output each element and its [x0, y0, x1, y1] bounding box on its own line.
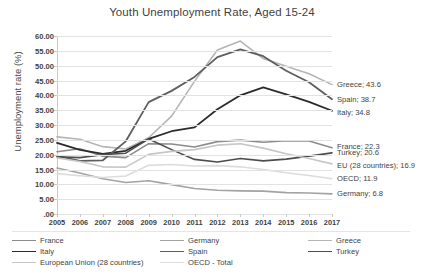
gridline [57, 140, 332, 141]
series-end-label: Italy; 34.8 [337, 108, 370, 117]
x-tick-label: 2005 [49, 218, 65, 227]
y-tick-mark [54, 170, 57, 171]
y-tick-mark [54, 81, 57, 82]
gridline [57, 81, 332, 82]
series-end-label: Spain; 38.7 [337, 95, 375, 104]
y-tick-mark [54, 125, 57, 126]
x-tick-label: 2006 [72, 218, 88, 227]
legend-label: Turkey [336, 247, 359, 256]
legend-label: Spain [188, 247, 207, 256]
y-tick-label: 60.00 [4, 32, 54, 41]
y-tick-mark [54, 110, 57, 111]
legend-item[interactable]: Italy [12, 247, 54, 256]
x-tick-mark [240, 214, 241, 217]
x-tick-label: 2013 [232, 218, 248, 227]
y-tick-mark [54, 36, 57, 37]
legend-item[interactable]: Spain [160, 247, 207, 256]
x-tick-mark [217, 214, 218, 217]
gridline [57, 95, 332, 96]
x-tick-label: 2017 [324, 218, 340, 227]
legend-item[interactable]: OECD - Total [160, 258, 233, 267]
x-tick-label: 2009 [140, 218, 156, 227]
series-line [57, 139, 332, 162]
x-tick-mark [172, 214, 173, 217]
x-tick-mark [195, 214, 196, 217]
gridline [57, 66, 332, 67]
series-line [57, 87, 332, 153]
y-tick-label: 15.00 [4, 165, 54, 174]
y-tick-mark [54, 95, 57, 96]
y-tick-mark [54, 51, 57, 52]
gridline [57, 199, 332, 200]
gridline [57, 110, 332, 111]
y-tick-label: 10.00 [4, 180, 54, 189]
x-tick-label: 2012 [209, 218, 225, 227]
legend-swatch-icon [308, 240, 332, 241]
y-tick-mark [54, 184, 57, 185]
legend-item[interactable]: Turkey [308, 247, 359, 256]
legend-swatch-icon [12, 240, 36, 241]
y-tick-label: 30.00 [4, 121, 54, 130]
x-tick-mark [126, 214, 127, 217]
legend-swatch-icon [160, 240, 184, 241]
legend-item[interactable]: Germany [160, 236, 219, 245]
x-tick-mark [57, 214, 58, 217]
gridline [57, 170, 332, 171]
legend-separator [12, 231, 410, 232]
x-tick-label: 2007 [95, 218, 111, 227]
gridline [57, 155, 332, 156]
y-tick-label: 50.00 [4, 61, 54, 70]
y-tick-mark [54, 199, 57, 200]
x-tick-label: 2014 [255, 218, 271, 227]
series-end-label: EU (28 countries); 16.9 [337, 161, 415, 170]
series-line [57, 168, 332, 194]
x-tick-mark [103, 214, 104, 217]
legend-item[interactable]: Greece [308, 236, 361, 245]
chart-container: Youth Unemployment Rate, Aged 15-24 Unem… [0, 0, 424, 276]
legend-swatch-icon [12, 262, 36, 263]
x-tick-label: 2015 [278, 218, 294, 227]
gridline [57, 184, 332, 185]
y-tick-label: 35.00 [4, 106, 54, 115]
y-tick-label: .00 [4, 210, 54, 219]
x-tick-label: 2008 [118, 218, 134, 227]
y-tick-label: 5.00 [4, 195, 54, 204]
y-tick-mark [54, 155, 57, 156]
legend-label: OECD - Total [188, 258, 233, 267]
legend-label: Germany [188, 236, 219, 245]
legend-label: Greece [336, 236, 361, 245]
chart-title: Youth Unemployment Rate, Aged 15-24 [0, 6, 424, 18]
series-line [57, 164, 332, 178]
y-tick-label: 45.00 [4, 76, 54, 85]
legend-label: France [40, 236, 64, 245]
y-tick-mark [54, 140, 57, 141]
gridline [57, 36, 332, 37]
x-tick-mark [286, 214, 287, 217]
y-tick-mark [54, 66, 57, 67]
series-end-label: Turkey; 20.6 [337, 148, 379, 157]
x-tick-label: 2010 [163, 218, 179, 227]
x-tick-mark [263, 214, 264, 217]
x-tick-mark [149, 214, 150, 217]
chart-legend: FranceGermanyGreeceItalySpainTurkeyEurop… [12, 236, 412, 270]
legend-item[interactable]: European Union (28 countries) [12, 258, 143, 267]
gridline [57, 125, 332, 126]
legend-label: Italy [40, 247, 54, 256]
x-tick-mark [332, 214, 333, 217]
x-tick-mark [80, 214, 81, 217]
plot-area [57, 36, 332, 214]
legend-swatch-icon [160, 262, 184, 263]
series-end-label: OECD; 11.9 [337, 174, 377, 183]
legend-item[interactable]: France [12, 236, 64, 245]
y-tick-label: 25.00 [4, 135, 54, 144]
y-tick-label: 40.00 [4, 91, 54, 100]
y-axis-ticks: .005.0010.0015.0020.0025.0030.0035.0040.… [0, 0, 54, 276]
y-tick-label: 20.00 [4, 150, 54, 159]
series-end-label: Greece; 43.6 [337, 80, 381, 89]
y-tick-label: 55.00 [4, 46, 54, 55]
y-tick-mark [54, 214, 57, 215]
x-tick-label: 2016 [301, 218, 317, 227]
gridline [57, 51, 332, 52]
legend-swatch-icon [308, 251, 332, 252]
legend-label: European Union (28 countries) [40, 258, 143, 267]
